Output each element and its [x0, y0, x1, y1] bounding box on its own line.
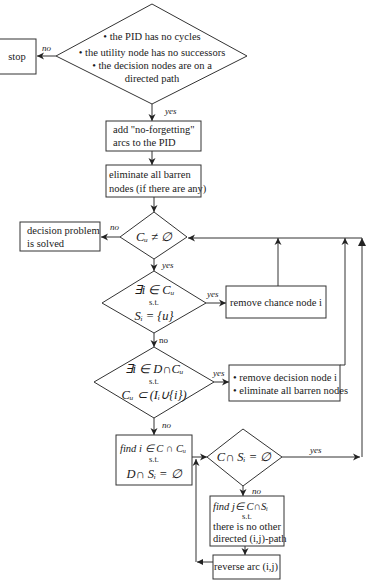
find-j-line-1: find j∈ C∩Sᵢ: [213, 501, 268, 512]
decision-check-line-3: Cᵤ ⊂ (Iᵢ∪{i}): [121, 388, 186, 402]
remove-decision-line-1: • remove decision node i: [233, 372, 337, 383]
eliminate-barren-line-2: nodes (if there are any): [109, 183, 207, 195]
decision-solved-box: decision problem is solved: [20, 222, 100, 251]
remove-chance-label: remove chance node i: [230, 297, 322, 308]
chance-check-diamond: ∃i ∈ Cᵤ s.t. Sᵢ = {u}: [102, 271, 206, 333]
edge-label-no-stop: no: [42, 43, 52, 53]
remove-decision-line-2: • eliminate all barren nodes: [233, 385, 348, 396]
decision-check-diamond: ∃i ∈ D∩Cᵤ s.t. Cᵤ ⊂ (Iᵢ∪{i}): [94, 347, 214, 418]
chance-check-line-3: Sᵢ = {u}: [134, 309, 173, 323]
edge-label-yes-remove-decision: yes: [212, 368, 225, 378]
eliminate-barren-box: eliminate all barren nodes (if there are…: [106, 165, 207, 197]
check-pid-line-1: • the PID has no cycles: [103, 31, 200, 42]
stop-label: stop: [8, 51, 26, 62]
edge-label-yes-loop: yes: [309, 445, 322, 455]
find-i-box: find i ∈ C ∩ Cᵤ s.t. D∩ Sᵢ = ∅: [116, 435, 192, 485]
find-j-line-2: s.t.: [242, 511, 252, 521]
edge-label-no-decision: no: [159, 335, 169, 345]
check-pid-diamond: • the PID has no cycles • the utility no…: [56, 4, 247, 104]
decision-check-line-1: ∃i ∈ D∩Cᵤ: [125, 362, 184, 376]
check-pid-line-2: • the utility node has no successors: [79, 47, 226, 58]
find-i-line-3: D∩ Sᵢ = ∅: [125, 467, 182, 481]
edge-label-yes-remove-chance: yes: [206, 289, 219, 299]
eliminate-barren-line-1: eliminate all barren: [109, 169, 191, 180]
cu-nonempty-diamond: Cᵤ ≠ ∅: [120, 212, 187, 259]
check-pid-line-4: directed path: [125, 73, 180, 84]
find-j-line-3: there is no other: [213, 521, 281, 532]
edge-label-yes-chance: yes: [161, 260, 174, 270]
add-arcs-line-2: arcs to the PID: [113, 137, 176, 148]
chance-check-line-1: ∃i ∈ Cᵤ: [134, 283, 175, 297]
find-i-line-1: find i ∈ C ∩ Cᵤ: [120, 443, 186, 454]
reverse-arc-box: reverse arc (i,j): [213, 555, 280, 579]
find-j-box: find j∈ C∩Sᵢ s.t. there is no other dire…: [210, 496, 287, 546]
remove-decision-box: • remove decision node i • eliminate all…: [229, 365, 348, 401]
find-j-line-4: directed (i,j)-path: [213, 533, 287, 545]
cu-nonempty-label: Cᵤ ≠ ∅: [136, 230, 173, 244]
add-arcs-line-1: add "no-forgetting": [113, 124, 195, 135]
c-si-empty-label: C∩ Sᵢ = ∅: [217, 450, 272, 464]
c-si-empty-diamond: C∩ Sᵢ = ∅: [207, 429, 282, 486]
chance-check-line-2: s.t.: [149, 297, 159, 307]
edge-label-yes-add: yes: [164, 106, 177, 116]
solved-line-2: is solved: [27, 238, 65, 249]
remove-chance-box: remove chance node i: [226, 286, 326, 318]
edge-label-no-find-j: no: [252, 486, 262, 496]
arrowhead-up-right: [358, 238, 366, 246]
solved-line-1: decision problem: [27, 225, 100, 236]
decision-check-line-2: s.t.: [149, 376, 159, 386]
edge-label-no-find-i: no: [162, 420, 172, 430]
arrowhead-left: [197, 559, 203, 565]
check-pid-line-3: • the decision nodes are on a: [92, 60, 212, 71]
edge-label-no-solved: no: [110, 222, 120, 232]
reverse-arc-label: reverse arc (i,j): [214, 561, 278, 573]
find-i-line-2: s.t.: [149, 454, 159, 464]
flowchart: • the PID has no cycles • the utility no…: [0, 0, 370, 582]
stop-box: stop: [0, 39, 36, 74]
add-arcs-box: add "no-forgetting" arcs to the PID: [106, 121, 201, 151]
